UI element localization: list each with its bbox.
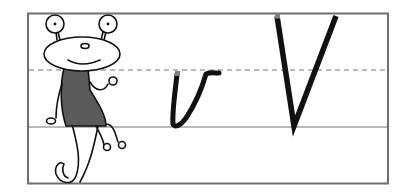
start-dot xyxy=(275,14,280,19)
start-dot xyxy=(175,71,180,76)
handwriting-worksheet: Letter V handwriting practice xyxy=(0,0,407,194)
head xyxy=(44,37,120,71)
